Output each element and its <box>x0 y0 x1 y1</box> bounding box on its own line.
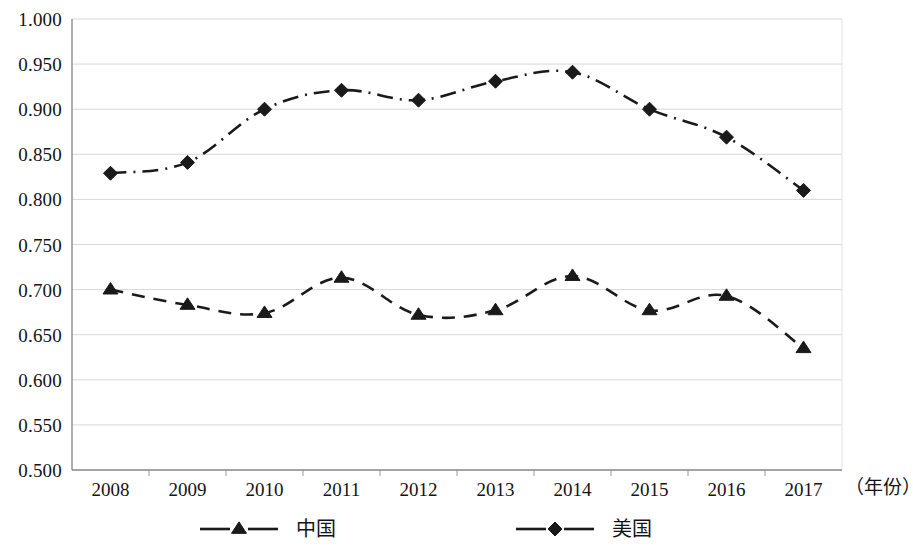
legend-label: 中国 <box>296 519 336 539</box>
legend-label: 美国 <box>612 519 652 539</box>
gridlines <box>72 19 842 470</box>
legend-item[interactable]: 中国 <box>196 512 336 546</box>
x-axis-tick-label: 2010 <box>230 480 300 499</box>
x-axis-tick-label: 2011 <box>307 480 377 499</box>
data-point-marker <box>411 308 426 320</box>
x-axis-tick-label: 2009 <box>153 480 223 499</box>
data-point-marker <box>720 130 734 144</box>
triangle-marker <box>196 516 282 542</box>
data-point-marker <box>103 282 118 294</box>
series-line <box>111 276 804 348</box>
series-1 <box>103 269 811 353</box>
x-axis-tick-marks <box>149 470 765 476</box>
x-axis-tick-label: 2015 <box>615 480 685 499</box>
data-point-marker <box>565 269 580 281</box>
data-point-marker <box>412 93 426 107</box>
x-axis-title: （年份） <box>845 478 913 497</box>
chart-legend: 中国美国 <box>0 512 905 546</box>
x-axis-tick-label: 2016 <box>692 480 762 499</box>
series-2 <box>104 65 811 197</box>
series-layer <box>103 65 811 352</box>
data-point-marker <box>334 271 349 283</box>
data-point-marker <box>258 102 272 116</box>
x-axis-tick-label: 2013 <box>461 480 531 499</box>
series-line <box>111 71 804 191</box>
data-point-marker <box>335 83 349 97</box>
data-point-marker <box>796 341 811 353</box>
data-point-marker <box>642 303 657 315</box>
x-axis-tick-label: 2012 <box>384 480 454 499</box>
data-point-marker <box>104 166 118 180</box>
data-point-marker <box>643 102 657 116</box>
legend-item[interactable]: 美国 <box>512 512 652 546</box>
data-point-marker <box>489 74 503 88</box>
x-axis-tick-label: 2014 <box>538 480 608 499</box>
data-point-marker <box>488 303 503 315</box>
diamond-marker <box>512 516 598 542</box>
x-axis-tick-label: 2017 <box>769 480 839 499</box>
x-axis-tick-label: 2008 <box>76 480 146 499</box>
data-point-marker <box>566 65 580 79</box>
data-point-marker <box>181 155 195 169</box>
